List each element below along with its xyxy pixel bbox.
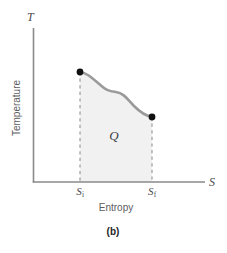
x-axis-symbol: S <box>209 176 215 188</box>
panel-caption: (b) <box>107 227 120 237</box>
initial-state-point <box>77 69 84 76</box>
x-tick-label-final-entropy: Sf <box>148 186 156 197</box>
temperature-entropy-diagram: T S Temperature Entropy Si Sf Q (b) <box>0 0 227 253</box>
tick-subscript-initial: i <box>82 190 84 199</box>
plot-canvas <box>0 0 227 253</box>
x-tick-label-initial-entropy: Si <box>76 186 84 197</box>
tick-symbol-final: S <box>148 185 154 197</box>
y-axis-symbol: T <box>27 11 34 23</box>
heat-area-label: Q <box>109 129 118 142</box>
tick-subscript-final: f <box>154 190 157 199</box>
final-state-point <box>149 114 156 121</box>
tick-symbol-initial: S <box>76 185 82 197</box>
x-axis-title: Entropy <box>99 203 133 213</box>
y-axis-title: Temperature <box>12 80 22 136</box>
